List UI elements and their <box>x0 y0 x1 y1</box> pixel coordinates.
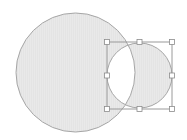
handle-bottom-left[interactable] <box>105 107 110 112</box>
handle-bottom-right[interactable] <box>170 107 175 112</box>
handle-top-middle[interactable] <box>137 40 142 45</box>
handle-middle-left[interactable] <box>105 73 110 78</box>
handle-top-left[interactable] <box>105 40 110 45</box>
handle-bottom-middle[interactable] <box>137 107 142 112</box>
drawing-canvas[interactable] <box>0 0 187 140</box>
handle-top-right[interactable] <box>170 40 175 45</box>
handle-middle-right[interactable] <box>170 73 175 78</box>
combined-shape[interactable] <box>16 13 172 132</box>
